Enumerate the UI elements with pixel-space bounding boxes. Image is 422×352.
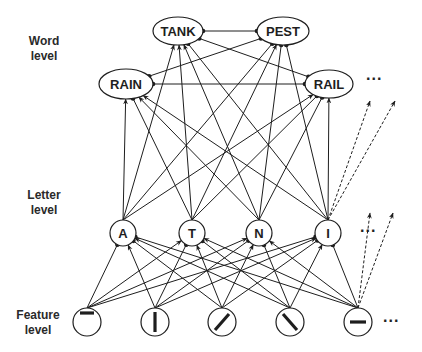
letter-node-label: I <box>326 226 330 241</box>
letter-node-a: A <box>110 220 136 246</box>
word-node-label: TANK <box>160 24 196 39</box>
letter-word-connection <box>123 99 126 220</box>
dashed-connection <box>328 101 395 220</box>
feature-node-horizontal-middle <box>344 308 372 336</box>
feature-node-diagonal-right <box>208 308 236 336</box>
nodes: TANKPESTRAINRAILATNI <box>73 17 372 336</box>
feature-letter-connection <box>155 238 316 308</box>
word-word-connection <box>149 38 261 76</box>
feature-node-horizontal-top <box>73 308 101 336</box>
feature-letter-connection <box>290 245 322 308</box>
feature-node-vertical <box>141 308 169 336</box>
letter-node-label: A <box>118 226 128 241</box>
word-node-rail: RAIL <box>305 70 353 98</box>
dashed-connection <box>358 213 370 308</box>
letter-node-t: T <box>179 220 205 246</box>
feature-letter-connection <box>87 237 316 308</box>
dashed-connection <box>328 101 370 220</box>
letter-word-connection <box>259 97 322 220</box>
network-diagram: TANKPESTRAINRAILATNI <box>0 0 422 352</box>
letter-word-connection <box>184 45 259 220</box>
word-node-rain: RAIN <box>99 69 153 99</box>
letter-word-connection <box>133 98 192 220</box>
feature-node-diagonal-left <box>276 308 304 336</box>
word-node-label: RAIN <box>110 77 142 92</box>
feature-letter-connection <box>87 245 117 308</box>
feature-letter-connection <box>87 241 181 308</box>
word-node-pest: PEST <box>257 17 309 45</box>
letter-node-n: N <box>246 220 272 246</box>
letter-word-connection <box>192 45 276 220</box>
letter-word-connection <box>192 96 317 220</box>
letter-word-connection <box>143 96 328 220</box>
letter-word-connection <box>328 98 329 220</box>
letter-node-label: N <box>254 226 263 241</box>
dashed-connection <box>358 213 393 308</box>
letter-word-connection <box>179 45 192 220</box>
letter-node-label: T <box>188 226 196 241</box>
word-node-tank: TANK <box>153 17 203 45</box>
letter-node-i: I <box>315 220 341 246</box>
word-node-label: RAIL <box>314 77 344 92</box>
feature-letter-connection <box>155 241 248 308</box>
letter-word-connection <box>123 94 313 220</box>
letter-word-connection <box>259 45 281 220</box>
feature-letter-connection <box>87 238 247 308</box>
word-node-label: PEST <box>266 24 300 39</box>
letter-word-connection <box>139 97 259 220</box>
